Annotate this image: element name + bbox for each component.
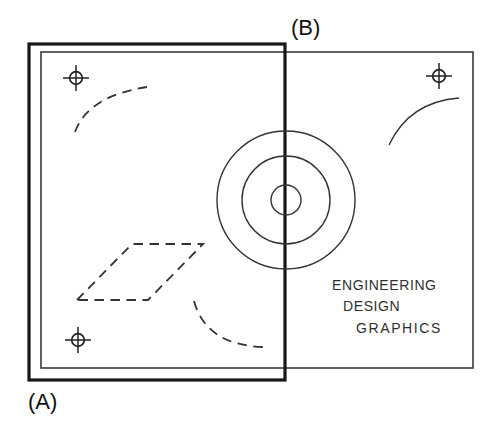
title-block-line1: ENGINEERING xyxy=(332,277,437,293)
drawing-svg: (B) (A) ENGINEERING DESIGN GRAPHICS xyxy=(0,0,494,424)
registration-mark-icon xyxy=(63,65,89,91)
title-block-line2: DESIGN xyxy=(343,298,400,314)
registration-mark-icon xyxy=(426,63,452,89)
sheet-a-label: (A) xyxy=(28,389,57,414)
sheet-b-label: (B) xyxy=(291,15,320,40)
dashed-parallelogram xyxy=(77,244,203,300)
registration-mark-icon xyxy=(65,327,91,353)
title-block-line3: GRAPHICS xyxy=(356,320,442,336)
dashed-arc-top-left xyxy=(75,87,147,132)
figure-canvas: (B) (A) ENGINEERING DESIGN GRAPHICS xyxy=(0,0,494,424)
solid-arc-top-right xyxy=(389,98,459,145)
sheet-a-outline xyxy=(29,44,285,380)
dashed-arc-bottom xyxy=(194,301,263,347)
